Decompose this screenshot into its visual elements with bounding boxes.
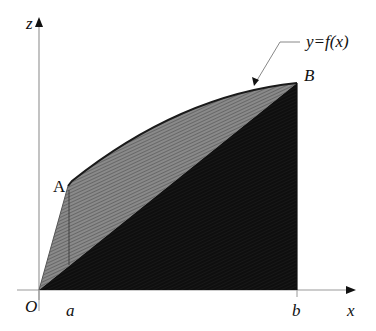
x-axis-label: x (347, 302, 355, 319)
tick-a-label: a (66, 302, 75, 319)
curve-label: y=f(x) (306, 33, 349, 50)
point-A-label: A (53, 178, 65, 195)
point-B-label: B (304, 67, 314, 84)
diagram-canvas: z x O A B a b y=f(x) (0, 0, 376, 331)
z-axis-label: z (26, 15, 33, 32)
x-axis-arrow-icon (346, 286, 356, 294)
tick-b-label: b (292, 302, 301, 319)
z-axis-arrow-icon (35, 17, 43, 27)
leader-line (256, 42, 300, 82)
origin-label: O (25, 298, 37, 315)
